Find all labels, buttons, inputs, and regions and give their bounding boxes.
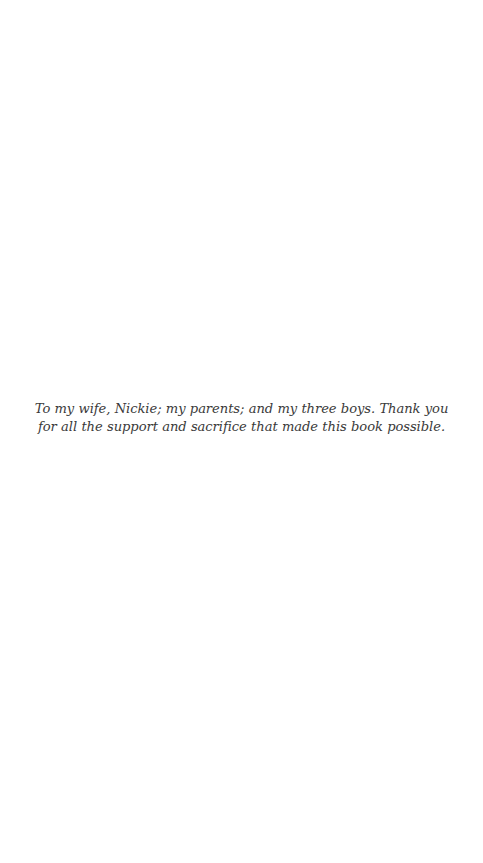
dedication-text: To my wife, Nickie; my parents; and my t… <box>34 400 450 436</box>
document-page: To my wife, Nickie; my parents; and my t… <box>0 0 483 863</box>
dedication-block: To my wife, Nickie; my parents; and my t… <box>34 400 450 436</box>
